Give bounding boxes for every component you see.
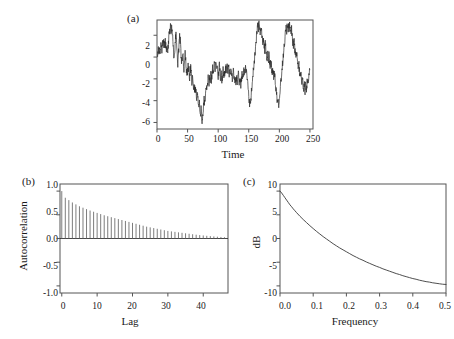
panel-a-series-line	[157, 21, 310, 124]
panel-a-plot-area	[0, 0, 454, 170]
panel-c-spectral-density: (c) 10 5 0 -5 -10 0.0 0.1 0.2 0.3 0.4 0.…	[250, 170, 454, 339]
panel-b-plot-area	[0, 170, 250, 339]
panel-a-frame	[157, 20, 313, 129]
panel-b-spikes	[62, 191, 225, 238]
figure-container: (a) 2 0 -2 -4 -6 0 50 100 150 200 250 Ti…	[0, 0, 454, 339]
panel-c-spectrum-line	[280, 191, 446, 284]
panel-a-time-series: (a) 2 0 -2 -4 -6 0 50 100 150 200 250 Ti…	[0, 0, 454, 170]
panel-b-autocorrelation: (b) 1.0 0.5 0.0 -0.5 -1.0 0 10 20 30 40 …	[0, 170, 250, 339]
panel-c-frame	[280, 184, 446, 293]
panel-c-plot-area	[250, 170, 454, 339]
